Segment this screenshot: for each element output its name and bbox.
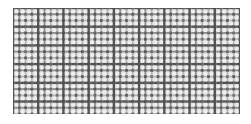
screenshot-canvas: Woven wire mesh screen — [0, 0, 251, 124]
mesh-grain-overlay — [13, 8, 240, 114]
wire-mesh-image — [0, 0, 251, 124]
